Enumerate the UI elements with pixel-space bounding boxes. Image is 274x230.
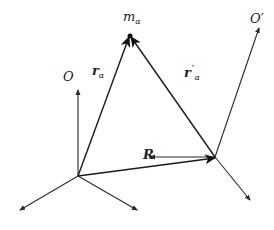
axis-O-prime-up-right xyxy=(215,28,259,157)
label-R-text: R xyxy=(143,147,154,162)
label-r-prime-alpha: r′α xyxy=(184,64,200,82)
axis-O-prime-down-right xyxy=(215,157,250,200)
label-O-prime-text: O′ xyxy=(250,11,264,26)
frame-O-axes xyxy=(20,90,137,210)
label-r-alpha: rα xyxy=(92,64,104,80)
particle-m-alpha xyxy=(128,34,133,39)
diagram-svg xyxy=(0,0,274,230)
vector-r-prime-alpha xyxy=(131,37,215,157)
label-r-prime-text: r xyxy=(184,65,191,80)
label-O-text: O xyxy=(63,69,74,84)
label-R: R xyxy=(143,148,154,161)
diagram-canvas: mα O O′ rα r′α R xyxy=(0,0,274,230)
axis-O-lower-left xyxy=(20,176,78,210)
label-r-text: r xyxy=(92,63,99,78)
label-r-prime-sub: α xyxy=(195,73,200,82)
axis-O-lower-right xyxy=(78,176,137,210)
vector-r-alpha xyxy=(78,37,129,176)
label-origin-O: O xyxy=(63,70,74,83)
label-origin-O-prime: O′ xyxy=(250,12,264,25)
frame-O-prime-axes xyxy=(150,28,259,200)
label-m-sub: α xyxy=(135,17,140,26)
label-r-sub: α xyxy=(99,71,104,80)
label-m-alpha: mα xyxy=(123,10,141,26)
label-m-text: m xyxy=(123,9,135,24)
